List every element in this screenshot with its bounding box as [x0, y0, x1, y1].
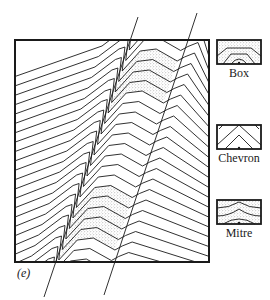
fold-layers	[5, 26, 215, 297]
legend-swatch-mitre	[217, 200, 261, 224]
fold-style-legend: BoxChevronMitre	[217, 40, 261, 240]
cross-section	[5, 13, 215, 297]
legend-hinge-dot	[238, 147, 240, 149]
legend-item-box: Box	[217, 40, 261, 80]
fold-layer	[5, 79, 215, 128]
fold-layer	[5, 89, 215, 136]
fold-layer	[5, 37, 215, 90]
fold-layer	[5, 268, 215, 297]
fold-layer	[5, 121, 215, 165]
legend-item-chevron: Chevron	[217, 125, 261, 165]
legend-hinge-dot	[238, 62, 240, 64]
legend-hinge-dot	[238, 222, 240, 224]
legend-label-chevron: Chevron	[218, 151, 259, 165]
legend-item-mitre: Mitre	[217, 200, 261, 240]
legend-label-mitre: Mitre	[226, 226, 253, 240]
panel-label: (e)	[17, 266, 30, 280]
fold-layer	[5, 110, 215, 155]
fold-diagram: (e) BoxChevronMitre	[0, 0, 270, 300]
legend-swatch-chevron	[217, 125, 261, 149]
legend-label-box: Box	[229, 66, 249, 80]
legend-swatch-box	[217, 40, 261, 64]
